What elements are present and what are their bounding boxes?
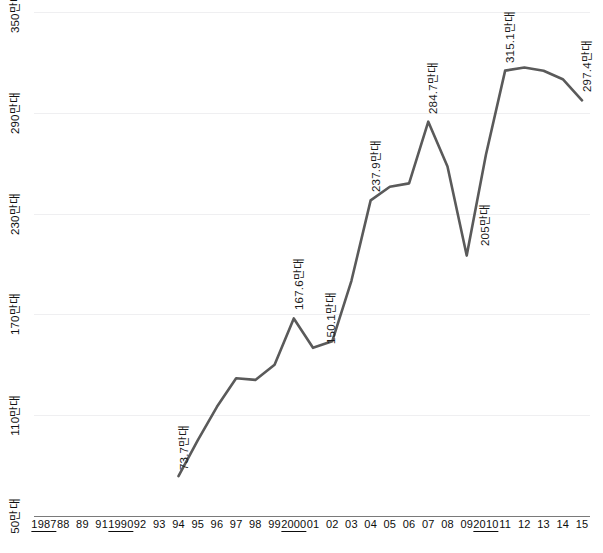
x-axis-tick-label: 09 <box>460 518 473 530</box>
x-axis-tick-label: 08 <box>441 518 454 530</box>
x-axis-tick-label: 2000 <box>281 518 306 532</box>
x-axis-tick-label: 11 <box>499 518 511 530</box>
x-axis-tick-label: 05 <box>384 518 397 530</box>
data-point-label: 297.4만대 <box>578 40 594 92</box>
x-axis-tick-label: 89 <box>76 518 89 530</box>
x-axis-tick-label: 91 <box>95 518 108 530</box>
x-axis-tick-label: 14 <box>556 518 569 530</box>
y-axis-tick-label: 350만대 <box>6 0 22 33</box>
x-axis-tick-label: 98 <box>249 518 262 530</box>
x-axis-tick-label: 01 <box>307 518 320 530</box>
x-axis-tick-label: 1987 <box>31 518 56 532</box>
data-point-label: 284.7만대 <box>424 62 440 114</box>
x-axis-tick-label: 2010 <box>473 518 498 532</box>
chart-screenshot: 50만대110만대170만대230만대290만대350만대 73.7만대167.… <box>0 0 603 553</box>
x-axis-tick-label: 95 <box>191 518 204 530</box>
x-axis-tick-label: 07 <box>422 518 435 530</box>
y-axis-tick-label: 290만대 <box>6 92 22 134</box>
data-point-label: 237.9만대 <box>367 140 383 192</box>
x-axis-tick-label: 12 <box>518 518 531 530</box>
plot-area: 50만대110만대170만대230만대290만대350만대 73.7만대167.… <box>34 12 590 516</box>
data-line <box>179 67 583 476</box>
x-axis-tick-label: 92 <box>134 518 147 530</box>
y-axis-tick-label: 50만대 <box>6 498 22 534</box>
data-point-label: 150.1만대 <box>322 292 338 344</box>
x-axis-labels: 1987888991199092939495969798992000010203… <box>34 518 590 542</box>
x-axis-tick-label: 97 <box>230 518 243 530</box>
x-axis-tick-label: 1990 <box>108 518 133 532</box>
x-axis-tick-label: 04 <box>364 518 377 530</box>
x-axis-tick-label: 94 <box>172 518 185 530</box>
y-axis-tick-label: 230만대 <box>6 193 22 235</box>
x-axis-tick-label: 15 <box>576 518 589 530</box>
x-axis-tick-label: 93 <box>153 518 166 530</box>
x-axis-tick-label: 02 <box>326 518 339 530</box>
data-point-label: 167.6만대 <box>290 258 306 310</box>
x-axis-tick-label: 13 <box>537 518 550 530</box>
data-point-label: 73.7만대 <box>175 425 191 471</box>
x-axis-tick-label: 03 <box>345 518 358 530</box>
y-axis-tick-label: 110만대 <box>6 395 22 436</box>
x-axis-tick-label: 99 <box>268 518 281 530</box>
line-series <box>34 12 590 516</box>
y-axis-tick-label: 170만대 <box>6 293 22 335</box>
data-point-label: 315.1만대 <box>501 10 517 62</box>
x-axis-tick-label: 96 <box>211 518 224 530</box>
x-axis-tick-label: 88 <box>57 518 70 530</box>
data-point-label: 205만대 <box>476 203 492 245</box>
axis-baseline <box>34 516 590 517</box>
x-axis-tick-label: 06 <box>403 518 416 530</box>
